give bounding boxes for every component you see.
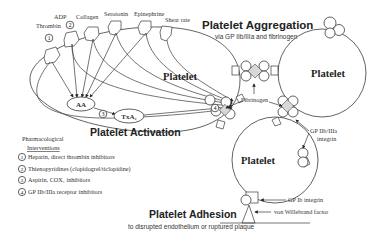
marker-1: 1: [45, 34, 53, 42]
svg-text:von Willebrand factor: von Willebrand factor: [274, 208, 328, 215]
legend-item-4: 4 GP IIb/IIIa receptor inhibitors: [18, 188, 102, 196]
svg-text:1: 1: [48, 35, 51, 41]
svg-text:Pharmacological: Pharmacological: [22, 135, 64, 142]
legend-item-1: 1 Heparin, direct thrombin inhibitors: [18, 153, 115, 161]
svg-text:Serotonin: Serotonin: [104, 10, 128, 17]
svg-text:Shear rate: Shear rate: [165, 16, 190, 23]
marker-4: 4: [211, 104, 219, 112]
legend-item-2: 2 Thienopyridines (clopidogrel/ticlopidi…: [18, 165, 130, 173]
svg-text:Thrombin: Thrombin: [36, 22, 61, 29]
platelet-diagram: AA TxA₂ 1 2 3 Thrombin ADP Collagen Sero…: [0, 0, 370, 241]
adhesion-subtitle: to disrupted endothelium or ruptured pla…: [128, 223, 254, 231]
svg-text:2: 2: [69, 22, 72, 28]
aggregation-subtitle: via GP IIb/IIIa and fibrinogen: [215, 33, 298, 41]
svg-text:AA: AA: [76, 101, 86, 109]
svg-text:ADP: ADP: [54, 13, 67, 20]
gp2b3a-site: [205, 94, 245, 129]
svg-text:Interventions: Interventions: [27, 144, 60, 151]
svg-text:Heparin, direct thrombin inhib: Heparin, direct thrombin inhibitors: [28, 153, 115, 160]
marker-2: 2: [66, 21, 74, 29]
legend-item-3: 3 Aspirin, COX₁ inhibitors: [18, 176, 90, 184]
aggregation-title: Platelet Aggregation: [202, 19, 313, 31]
activation-title: Platelet Activation: [90, 126, 181, 138]
platelet-left-label: Platelet: [163, 71, 197, 82]
aa-node: AA: [67, 97, 95, 111]
svg-text:Collagen: Collagen: [76, 13, 98, 20]
legend: Pharmacological Interventions 1 Heparin,…: [18, 135, 130, 196]
adhesion-title: Platelet Adhesion: [149, 208, 237, 220]
marker-3: 3: [99, 110, 107, 118]
svg-text:TxA₂: TxA₂: [121, 113, 136, 121]
svg-text:Thienopyridines (clopidogrel/t: Thienopyridines (clopidogrel/ticlopidine…: [28, 165, 131, 173]
svg-text:4: 4: [214, 105, 217, 111]
svg-text:integrin: integrin: [317, 135, 336, 142]
platelet-right-label: Platelet: [311, 68, 345, 79]
svg-text:GP Ib integrin: GP Ib integrin: [288, 196, 323, 203]
txa2-node: TxA₂: [114, 109, 144, 123]
svg-text:GP IIb/IIIa receptor inhibitor: GP IIb/IIIa receptor inhibitors: [28, 188, 103, 195]
svg-text:Aspirin, COX₁ inhibitors: Aspirin, COX₁ inhibitors: [28, 176, 91, 183]
svg-text:GP IIb/IIIa: GP IIb/IIIa: [310, 127, 337, 134]
svg-text:Fibrinogen: Fibrinogen: [241, 96, 268, 103]
svg-text:Epinephrine: Epinephrine: [134, 10, 164, 17]
platelet-bottom-label: Platelet: [241, 155, 275, 166]
svg-text:3: 3: [102, 111, 105, 117]
